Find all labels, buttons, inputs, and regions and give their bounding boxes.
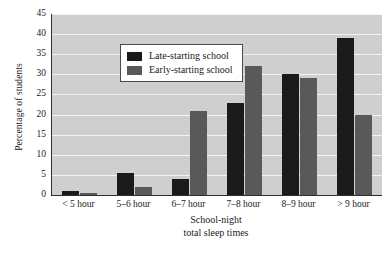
x-axis-tick-label: > 9 hour: [326, 199, 381, 210]
bar: [190, 111, 207, 195]
y-axis-tick-label: 0: [20, 190, 46, 200]
bar: [117, 173, 134, 195]
bar: [300, 78, 317, 195]
legend-label-early-starting-school: Early-starting school: [149, 65, 233, 75]
legend-item: Late-starting school: [127, 49, 233, 63]
bar-groups: [52, 14, 382, 195]
legend: Late-starting school Early-starting scho…: [120, 44, 243, 82]
y-axis-tick-label: 40: [20, 29, 46, 39]
x-axis-tick-label: 6–7 hour: [161, 199, 216, 210]
bar: [135, 187, 152, 195]
y-axis-tick-label: 5: [20, 170, 46, 180]
x-axis-title-line-2: total sleep times: [51, 227, 381, 240]
x-axis-tick-label: 5–6 hour: [106, 199, 161, 210]
y-axis-tick-label: 30: [20, 70, 46, 80]
y-axis-tick-labels: 051015202530354045: [20, 14, 46, 195]
legend-item: Early-starting school: [127, 63, 233, 77]
x-axis-title-line-1: School-night: [51, 214, 381, 227]
bar: [62, 191, 79, 195]
plot-area: Late-starting school Early-starting scho…: [51, 14, 382, 196]
x-axis-tick-label: < 5 hour: [51, 199, 106, 210]
bar: [227, 103, 244, 196]
x-axis-title: School-night total sleep times: [51, 214, 381, 239]
bar-group: [162, 14, 217, 195]
bar-chart-figure: Percentage of students 05101520253035404…: [0, 0, 386, 270]
bar: [80, 193, 97, 195]
bar: [282, 74, 299, 195]
legend-swatch-late-starting-school: [127, 52, 142, 61]
y-axis-tick-label: 35: [20, 49, 46, 59]
bar-group: [272, 14, 327, 195]
y-axis-tick-label: 15: [20, 130, 46, 140]
y-axis-tick-label: 20: [20, 110, 46, 120]
bar: [337, 38, 354, 195]
bar-group: [52, 14, 107, 195]
legend-label-late-starting-school: Late-starting school: [149, 51, 229, 61]
x-axis-tick-labels: < 5 hour5–6 hour6–7 hour7–8 hour8–9 hour…: [51, 199, 381, 210]
x-axis-tick-label: 7–8 hour: [216, 199, 271, 210]
bar: [172, 179, 189, 195]
y-axis-tick-label: 25: [20, 90, 46, 100]
bar-group: [327, 14, 382, 195]
bar: [355, 115, 372, 195]
y-axis-tick-label: 45: [20, 9, 46, 19]
bar-group: [217, 14, 272, 195]
x-axis-tick-label: 8–9 hour: [271, 199, 326, 210]
y-axis-tick-label: 10: [20, 150, 46, 160]
legend-swatch-early-starting-school: [127, 66, 142, 75]
bar: [245, 66, 262, 195]
bar-group: [107, 14, 162, 195]
